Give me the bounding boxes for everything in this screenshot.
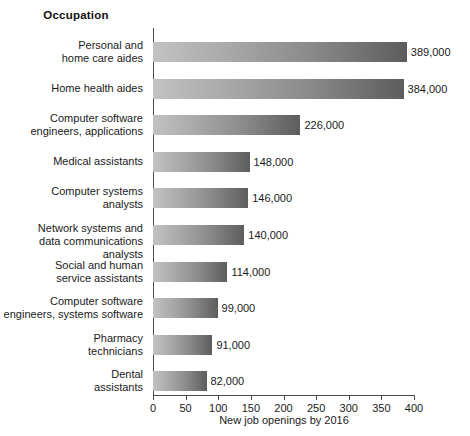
category-label-line: analysts (0, 198, 143, 211)
x-tick (186, 395, 187, 400)
x-tick-label: 150 (242, 402, 260, 414)
bar-row: 82,000 (153, 371, 415, 391)
category-label-line: data communications analysts (0, 235, 143, 261)
category-label-line: Computer software (0, 112, 143, 125)
category-label-line: engineers, systems software (0, 308, 143, 321)
bar (153, 262, 227, 282)
bar-row: 146,000 (153, 188, 415, 208)
x-tick (349, 395, 350, 400)
x-tick-label: 400 (405, 402, 423, 414)
category-label: Computer softwareengineers, systems soft… (0, 295, 148, 321)
category-label-line: Medical assistants (0, 155, 143, 168)
category-label: Pharmacytechnicians (0, 332, 148, 358)
bar-value-label: 389,000 (407, 46, 451, 58)
bar-row: 389,000 (153, 42, 415, 62)
bar-value-label: 140,000 (244, 229, 288, 241)
category-label-line: service assistants (0, 272, 143, 285)
category-label-line: Pharmacy (0, 332, 143, 345)
bar-value-label: 384,000 (404, 83, 448, 95)
x-tick-label: 0 (150, 402, 156, 414)
bar-row: 226,000 (153, 115, 415, 135)
bar-row: 114,000 (153, 262, 415, 282)
category-label-line: engineers, applications (0, 125, 143, 138)
x-tick (284, 395, 285, 400)
x-tick (251, 395, 252, 400)
category-label: Personal andhome care aides (0, 39, 148, 65)
category-label-line: Network systems and (0, 222, 143, 235)
bar-row: 99,000 (153, 298, 415, 318)
category-label-line: Dental (0, 368, 143, 381)
bar (153, 79, 404, 99)
bar (153, 298, 218, 318)
bar-value-label: 99,000 (218, 302, 256, 314)
x-tick-label: 250 (307, 402, 325, 414)
category-label: Home health aides (0, 82, 148, 95)
category-label-line: Computer systems (0, 185, 143, 198)
x-tick (414, 395, 415, 400)
x-tick-label: 200 (274, 402, 292, 414)
bar (153, 371, 207, 391)
bar-chart: Occupation Personal andhome care aidesHo… (0, 0, 470, 436)
x-tick (381, 395, 382, 400)
bar (153, 42, 407, 62)
category-label-line: home care aides (0, 52, 143, 65)
bar-value-label: 91,000 (212, 339, 250, 351)
category-label-line: Personal and (0, 39, 143, 52)
category-label-line: assistants (0, 381, 143, 394)
category-label-line: Social and human (0, 259, 143, 272)
x-tick-label: 100 (209, 402, 227, 414)
x-axis-title: New job openings by 2016 (153, 414, 415, 426)
bar-value-label: 226,000 (300, 119, 344, 131)
category-label-line: Home health aides (0, 82, 143, 95)
x-tick (218, 395, 219, 400)
bar (153, 225, 244, 245)
plot-area: 389,000384,000226,000148,000146,000140,0… (153, 28, 415, 396)
x-tick-label: 350 (372, 402, 390, 414)
bar-row: 148,000 (153, 152, 415, 172)
category-label: Medical assistants (0, 155, 148, 168)
category-label: Computer softwareengineers, applications (0, 112, 148, 138)
x-tick (153, 395, 154, 400)
bar (153, 152, 250, 172)
category-label-line: technicians (0, 345, 143, 358)
bar-value-label: 82,000 (207, 375, 245, 387)
category-label: Social and humanservice assistants (0, 259, 148, 285)
category-label: Network systems anddata communications a… (0, 222, 148, 261)
bar-value-label: 114,000 (227, 266, 270, 278)
x-tick (316, 395, 317, 400)
bar-value-label: 148,000 (250, 156, 294, 168)
bar (153, 188, 248, 208)
bar (153, 115, 300, 135)
bar-row: 140,000 (153, 225, 415, 245)
category-axis-labels: Personal andhome care aidesHome health a… (0, 0, 148, 436)
x-tick-label: 50 (180, 402, 192, 414)
bar-value-label: 146,000 (248, 192, 292, 204)
category-label-line: Computer software (0, 295, 143, 308)
x-tick-label: 300 (340, 402, 358, 414)
bar-row: 384,000 (153, 79, 415, 99)
bar (153, 335, 212, 355)
category-label: Computer systemsanalysts (0, 185, 148, 211)
bar-row: 91,000 (153, 335, 415, 355)
category-label: Dentalassistants (0, 368, 148, 394)
